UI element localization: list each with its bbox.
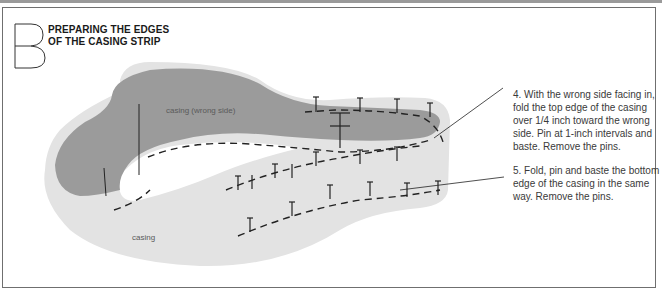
label-casing-wrong-side: casing (wrong side) bbox=[166, 106, 235, 115]
label-casing: casing bbox=[132, 233, 155, 242]
instruction-step-4: 4. With the wrong side facing in, fold t… bbox=[513, 88, 662, 153]
instruction-step-5: 5. Fold, pin and baste the bottom edge o… bbox=[513, 164, 662, 203]
